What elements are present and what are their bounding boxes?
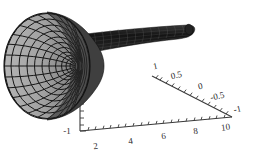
plot-canvas: 2 4 6 8 10 1 0.5 0 -0.5 -1 -1: [0, 0, 254, 163]
y-tick-label: -0.5: [209, 89, 226, 102]
surface-plot-figure: 2 4 6 8 10 1 0.5 0 -0.5 -1 -1: [0, 0, 254, 163]
z-tick-label: -1: [63, 126, 71, 136]
x-tick-label: 4: [128, 136, 134, 147]
y-tick-label: 1: [152, 61, 159, 72]
x-tick-label: 8: [193, 126, 199, 137]
y-tick-label: 0.5: [170, 69, 184, 81]
x-axis: [80, 115, 232, 131]
y-tick-label: 0: [197, 81, 204, 92]
y-tick-label: -1: [233, 103, 243, 114]
x-tick-label: 10: [220, 121, 231, 132]
x-tick-label: 2: [93, 141, 99, 152]
x-tick-label: 6: [161, 131, 167, 142]
